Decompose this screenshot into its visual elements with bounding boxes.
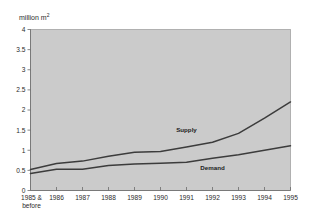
y-axis-tick-label: 1 <box>22 147 26 154</box>
series-label-supply: Supply <box>176 126 197 133</box>
y-axis-tick-label: 0.5 <box>16 167 25 174</box>
y-axis-tick-label: 1.5 <box>16 127 25 134</box>
x-axis-tick-label: 1994 <box>257 194 272 201</box>
plot-area-background <box>31 30 291 191</box>
x-axis-tick-label: 1992 <box>205 194 220 201</box>
chart-container: million m2 00.511.522.533.541985 &before… <box>0 0 309 222</box>
y-axis-tick-label: 2.5 <box>16 86 25 93</box>
x-axis-tick-label: 1985 & <box>21 194 43 201</box>
x-axis-tick-label: 1993 <box>231 194 246 201</box>
y-axis-tick-label: 4 <box>22 26 26 33</box>
y-axis-tick-label: 3.5 <box>16 46 25 53</box>
series-label-demand: Demand <box>200 164 225 171</box>
x-axis-tick-label: 1989 <box>127 194 142 201</box>
line-chart-plot: 00.511.522.533.541985 &before19861987198… <box>0 0 309 222</box>
x-axis-tick-label: 1986 <box>49 194 64 201</box>
x-axis-tick-label: 1987 <box>75 194 90 201</box>
x-axis-tick-label: before <box>22 202 41 209</box>
x-axis-tick-label: 1991 <box>179 194 194 201</box>
x-axis-tick-label: 1990 <box>153 194 168 201</box>
y-axis-tick-label: 3 <box>22 66 26 73</box>
y-axis-tick-label: 2 <box>22 106 26 113</box>
x-axis-tick-label: 1995 <box>283 194 298 201</box>
x-axis-tick-label: 1988 <box>101 194 116 201</box>
